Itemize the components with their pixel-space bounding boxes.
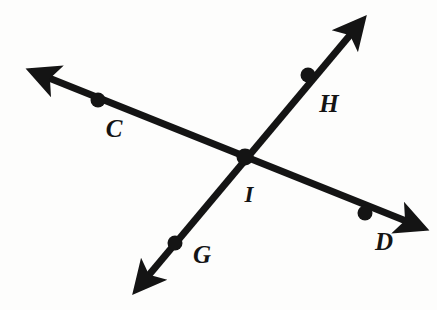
- point-label-C: C: [106, 116, 123, 141]
- geometry-canvas: [0, 0, 437, 310]
- point-dot-D: [358, 206, 373, 221]
- lines-group: [34, 22, 421, 288]
- line-CD: [34, 72, 421, 227]
- point-label-G: G: [193, 242, 211, 267]
- point-label-H: H: [319, 91, 338, 116]
- point-dot-I: [237, 149, 254, 166]
- point-dot-G: [168, 236, 183, 251]
- point-label-I: I: [245, 183, 254, 206]
- point-label-D: D: [375, 229, 393, 254]
- point-dot-H: [301, 68, 316, 83]
- geometry-figure: C H I G D: [0, 0, 437, 310]
- point-dot-C: [91, 93, 106, 108]
